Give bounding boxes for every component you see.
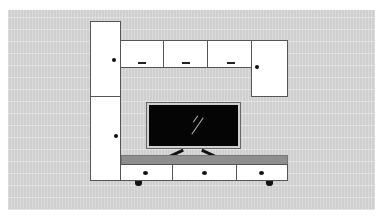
handle-icon: [182, 62, 190, 64]
knob-icon: [202, 171, 207, 175]
tv-console-drawer-1: [121, 164, 173, 181]
screen-glare-icon: [193, 115, 198, 122]
right-wall-cabinet: [251, 40, 288, 97]
top-wall-cabinet-1: [120, 40, 164, 68]
top-wall-cabinet-3: [207, 40, 252, 68]
tv-console-drawer-3: [236, 164, 288, 181]
left-tall-cabinet-upper-door: [90, 21, 121, 97]
knob-icon: [255, 65, 259, 69]
handle-icon: [227, 62, 235, 64]
left-tall-cabinet-lower-door: [90, 96, 121, 181]
console-foot-right: [266, 181, 273, 186]
top-wall-cabinet-2: [163, 40, 208, 68]
knob-icon: [143, 171, 148, 175]
knob-icon: [259, 171, 264, 175]
console-foot-left: [135, 181, 142, 186]
handle-icon: [138, 62, 146, 64]
tv-console-drawer-2: [172, 164, 237, 181]
tv-screen: [149, 105, 238, 146]
tv-icon: [146, 102, 241, 149]
knob-icon: [114, 134, 118, 138]
knob-icon: [112, 58, 116, 62]
